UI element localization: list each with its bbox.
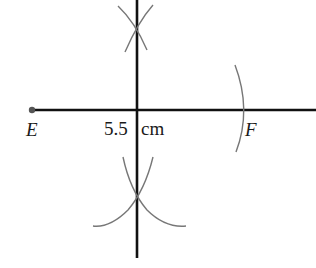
arc-at-f	[235, 65, 244, 152]
arc-bottom-left	[123, 157, 186, 226]
arc-bottom-right	[93, 157, 153, 226]
arc-top-left	[118, 6, 147, 50]
point-e-dot	[29, 107, 35, 113]
arc-top-right	[125, 5, 153, 52]
label-e: E	[25, 119, 38, 140]
construction-diagram: E 5.5 cm F	[0, 0, 316, 268]
label-f: F	[244, 119, 257, 140]
measurement-value: 5.5	[104, 118, 128, 139]
measurement-unit: cm	[141, 118, 164, 139]
